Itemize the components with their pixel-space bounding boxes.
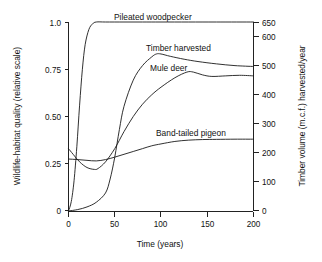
- series-label-band-tailed-pigeon: Band-tailed pigeon: [156, 128, 226, 138]
- bottom-axis-title: Time (years): [137, 239, 184, 249]
- left-tick-label-0-50: 0.50: [45, 113, 61, 122]
- right-tick-label-100: 100: [262, 178, 276, 187]
- right-tick-label-400: 400: [262, 91, 276, 100]
- left-axis-group: 1.0 0.75 0.50 0.25 0 Wildlife-habitat qu…: [12, 19, 69, 216]
- left-tick-label-0: 0: [56, 207, 61, 216]
- x-tick-label-0: 0: [66, 220, 71, 229]
- x-tick-label-150: 150: [201, 220, 215, 229]
- series-label-pileated-woodpecker: Pileated woodpecker: [114, 12, 192, 22]
- x-tick-label-200: 200: [247, 220, 261, 229]
- left-tick-label-1-0: 1.0: [50, 19, 62, 28]
- x-tick-label-50: 50: [110, 220, 120, 229]
- right-tick-label-600: 600: [262, 33, 276, 42]
- right-tick-label-500: 500: [262, 62, 276, 71]
- curve-band-tailed-pigeon: [69, 139, 254, 161]
- right-tick-label-200: 200: [262, 149, 276, 158]
- x-tick-label-100: 100: [154, 220, 168, 229]
- right-tick-label-300: 300: [262, 120, 276, 129]
- chart-plot-area: 1.0 0.75 0.50 0.25 0 Wildlife-habitat qu…: [0, 0, 322, 262]
- right-axis-group: 650 600 500 400 300 200 100 0 Timber vol…: [254, 19, 308, 216]
- left-tick-label-0-25: 0.25: [45, 160, 61, 169]
- curve-mule-deer: [69, 72, 254, 170]
- left-tick-label-0-75: 0.75: [45, 66, 61, 75]
- left-axis-title: Wildlife-habitat quality (relative scale…: [12, 47, 22, 185]
- right-tick-label-0: 0: [262, 207, 267, 216]
- series-label-timber-harvested: Timber harvested: [146, 43, 211, 53]
- series-labels-group: Pileated woodpecker Timber harvested Mul…: [114, 12, 226, 138]
- chart-figure: 1.0 0.75 0.50 0.25 0 Wildlife-habitat qu…: [0, 0, 322, 262]
- right-tick-label-650: 650: [262, 19, 276, 28]
- right-axis-title: Timber volume (m.c.f.) harvested/year: [297, 45, 307, 186]
- series-label-mule-deer: Mule deer: [150, 63, 187, 73]
- bottom-axis-group: 0 50 100 150 200 Time (years): [66, 212, 261, 250]
